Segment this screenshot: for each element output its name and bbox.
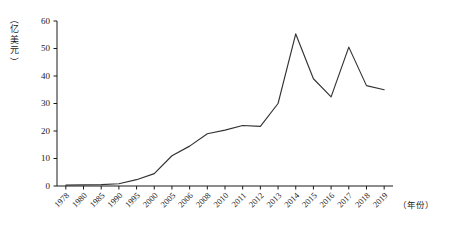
x-axis-tick-labels: 1978198019851990199520002005200620082010… xyxy=(52,190,389,210)
x-tick-label-1990: 1990 xyxy=(105,190,124,209)
y-axis-ticks: 0102030405060 xyxy=(41,16,57,191)
y-tick-label-0: 0 xyxy=(46,181,51,191)
x-axis-title: （年份） xyxy=(398,200,434,210)
x-tick-label-2010: 2010 xyxy=(211,190,230,209)
x-tick-label-2013: 2013 xyxy=(264,190,283,209)
y-tick-label-50: 50 xyxy=(41,43,51,53)
x-tick-label-2000: 2000 xyxy=(141,190,160,209)
x-tick-label-2008: 2008 xyxy=(194,190,213,209)
x-tick-label-2015: 2015 xyxy=(300,190,319,209)
x-tick-label-2014: 2014 xyxy=(282,190,302,210)
y-tick-label-30: 30 xyxy=(41,98,51,108)
x-tick-label-2012: 2012 xyxy=(247,190,266,209)
x-tick-label-2019: 2019 xyxy=(370,190,389,209)
chart-canvas: 0102030405060 19781980198519901995200020… xyxy=(0,0,468,229)
x-axis-ticks xyxy=(66,186,384,190)
y-tick-label-10: 10 xyxy=(41,153,51,163)
line-chart-figure: （ 亿 美 元 ） 0102030405060 1978198019851990… xyxy=(0,0,468,229)
x-tick-label-2005: 2005 xyxy=(158,190,177,209)
x-tick-label-2006: 2006 xyxy=(176,190,195,209)
x-tick-label-1985: 1985 xyxy=(88,190,107,209)
x-tick-label-2011: 2011 xyxy=(229,190,248,209)
data-series-line xyxy=(66,34,384,185)
y-tick-label-60: 60 xyxy=(41,16,51,26)
y-tick-label-40: 40 xyxy=(41,71,51,81)
x-tick-label-1995: 1995 xyxy=(123,190,142,209)
x-tick-label-2017: 2017 xyxy=(335,190,354,209)
x-tick-label-1978: 1978 xyxy=(52,190,71,209)
x-tick-label-1980: 1980 xyxy=(70,190,89,209)
y-tick-label-20: 20 xyxy=(41,126,51,136)
x-tick-label-2018: 2018 xyxy=(353,190,372,209)
x-tick-label-2016: 2016 xyxy=(317,190,336,209)
